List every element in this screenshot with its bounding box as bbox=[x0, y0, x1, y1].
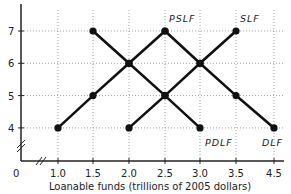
gridlines bbox=[18, 10, 284, 164]
origin-label: 0 bbox=[13, 168, 19, 179]
axes bbox=[17, 4, 284, 165]
y-tick-label: 5 bbox=[8, 91, 14, 102]
data-point bbox=[125, 60, 132, 67]
x-tick-label: 3.0 bbox=[192, 168, 208, 179]
x-tick-label: 3.5 bbox=[228, 168, 244, 179]
x-tick-label: 2.5 bbox=[157, 168, 173, 179]
data-point bbox=[161, 27, 168, 34]
curve-label-slf: SLF bbox=[240, 13, 260, 24]
curve-label-pslf: PSLF bbox=[169, 13, 196, 24]
data-point bbox=[89, 27, 96, 34]
x-tick-label: 4.5 bbox=[266, 168, 282, 179]
curve-label-dlf: DLF bbox=[262, 137, 283, 148]
x-tick-label: 2.0 bbox=[121, 168, 137, 179]
y-tick-label: 6 bbox=[8, 58, 14, 69]
loanable-funds-chart: 1.01.52.02.53.03.54.54567PSLFSLFPDLFDLF … bbox=[0, 0, 291, 194]
curves bbox=[54, 27, 277, 131]
x-axis-label: Loanable funds (trillions of 2005 dollar… bbox=[49, 181, 251, 192]
tick-labels: 1.01.52.02.53.03.54.54567PSLFSLFPDLFDLF bbox=[8, 13, 283, 179]
data-point bbox=[89, 92, 96, 99]
data-point bbox=[161, 92, 168, 99]
data-point bbox=[125, 124, 132, 131]
curve-label-pdlf: PDLF bbox=[205, 137, 233, 148]
y-tick-label: 4 bbox=[8, 123, 14, 134]
curve-pslf bbox=[58, 31, 165, 128]
data-point bbox=[270, 124, 277, 131]
y-tick-label: 7 bbox=[8, 26, 14, 37]
x-tick-label: 1.5 bbox=[85, 168, 101, 179]
data-point bbox=[54, 124, 61, 131]
data-point bbox=[232, 92, 239, 99]
x-tick-label: 1.0 bbox=[50, 168, 66, 179]
data-point bbox=[196, 124, 203, 131]
data-point bbox=[196, 60, 203, 67]
data-point bbox=[232, 27, 239, 34]
